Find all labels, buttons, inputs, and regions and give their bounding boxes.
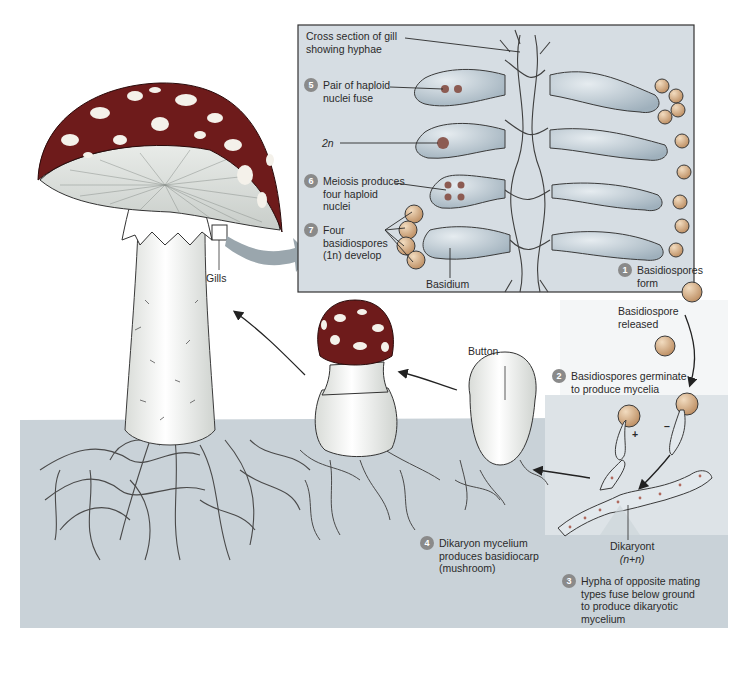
label-basidiospore-released: Basidiospore released — [618, 305, 679, 330]
gill-selection-box — [212, 225, 227, 240]
step-2: 2 Basidiospores germinate to produce myc… — [552, 370, 687, 395]
step-3-line1: Hypha of opposite mating — [581, 575, 700, 588]
step-5-line1: Pair of haploid — [323, 79, 390, 92]
step-badge: 3 — [562, 574, 576, 588]
step-badge: 4 — [420, 536, 434, 550]
label-basidium: Basidium — [426, 278, 469, 291]
step-3-line3: to produce dikaryotic — [581, 600, 700, 613]
step-2-line2: to produce mycelia — [571, 383, 687, 396]
label-dikaryont-text: Dikaryont — [610, 540, 654, 553]
label-2n: 2n — [322, 137, 334, 150]
step-4-line1: Dikaryon mycelium — [439, 537, 539, 550]
large-mushroom — [38, 83, 282, 445]
step-4: 4 Dikaryon mycelium produces basidiocarp… — [420, 537, 539, 575]
label-plus: + — [632, 428, 638, 441]
step-4-line3: (mushroom) — [439, 562, 539, 575]
zoom-arrow — [225, 236, 310, 272]
step-6-line2: four haploid — [323, 188, 405, 201]
step-badge: 2 — [552, 369, 566, 383]
step-2-line1: Basidiospores germinate — [571, 370, 687, 383]
step-badge: 7 — [304, 223, 318, 237]
step-7-line2: basidiospores — [323, 237, 388, 250]
label-dikaryont-ploidy: (n+n) — [610, 553, 654, 566]
step-7-line1: Four — [323, 224, 388, 237]
step-1: 1 Basidiospores form — [618, 264, 703, 289]
step-3-line2: types fuse below ground — [581, 588, 700, 601]
step-badge: 6 — [304, 174, 318, 188]
step-6-line3: nuclei — [323, 200, 405, 213]
label-dikaryont: Dikaryont (n+n) — [610, 540, 654, 565]
mushroom-life-cycle-diagram: Cross section of gill showing hyphae 5 P… — [0, 0, 749, 682]
step-7: 7 Four basidiospores (1n) develop — [304, 224, 388, 262]
step-3: 3 Hypha of opposite mating types fuse be… — [562, 575, 700, 625]
step-badge: 5 — [304, 78, 318, 92]
label-released-line1: Basidiospore — [618, 305, 679, 318]
step-1-line1: Basidiospores — [637, 264, 703, 277]
step-6: 6 Meiosis produces four haploid nuclei — [304, 175, 405, 213]
label-minus: – — [664, 420, 670, 433]
young-mushroom — [315, 300, 397, 457]
step-6-line1: Meiosis produces — [323, 175, 405, 188]
label-button: Button — [468, 345, 498, 358]
label-released-line2: released — [618, 318, 679, 331]
step-7-line3: (1n) develop — [323, 249, 388, 262]
label-cross-section: Cross section of gill showing hyphae — [306, 30, 397, 55]
label-cross-section-line2: showing hyphae — [306, 43, 397, 56]
step-3-line4: mycelium — [581, 613, 700, 626]
label-cross-section-line1: Cross section of gill — [306, 30, 397, 43]
label-gills: Gills — [206, 272, 226, 285]
step-4-line2: produces basidiocarp — [439, 550, 539, 563]
step-1-line2: form — [637, 277, 703, 290]
step-5: 5 Pair of haploid nuclei fuse — [304, 79, 390, 104]
step-badge: 1 — [618, 263, 632, 277]
step-5-line2: nuclei fuse — [323, 92, 390, 105]
